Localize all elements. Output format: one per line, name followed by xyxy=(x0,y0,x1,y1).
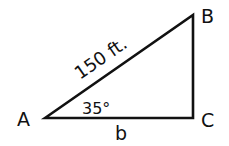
vertex-label-c: C xyxy=(201,109,214,131)
angle-label-a: 35° xyxy=(82,99,110,118)
hypotenuse-label: 150 ft. xyxy=(70,32,130,83)
triangle-svg: A B C b 35° 150 ft. xyxy=(0,0,229,146)
vertex-label-a: A xyxy=(17,108,30,130)
side-label-b: b xyxy=(115,122,127,144)
vertex-label-b: B xyxy=(201,5,214,27)
triangle-abc xyxy=(45,15,193,118)
triangle-diagram: A B C b 35° 150 ft. xyxy=(0,0,229,146)
